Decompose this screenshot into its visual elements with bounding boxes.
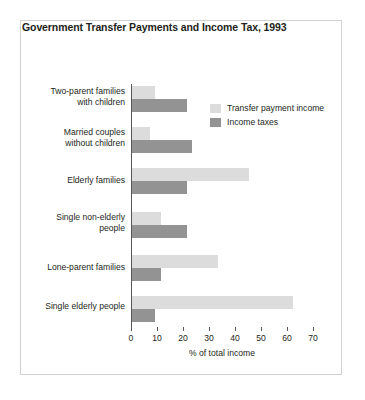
x-tick-label-2: 20	[171, 333, 195, 343]
x-tick-label-0: 0	[119, 333, 143, 343]
category-label-1: Married couples without children	[29, 127, 125, 149]
category-label-3-line-1: people	[29, 223, 125, 234]
category-label-4: Lone-parent families	[29, 262, 125, 273]
category-label-2-line-0: Elderly families	[29, 175, 125, 186]
category-label-2: Elderly families	[29, 175, 125, 186]
category-label-0: Two-parent families with children	[29, 86, 125, 108]
x-tick-label-5: 50	[249, 333, 273, 343]
bar-tax-0	[132, 99, 187, 112]
bar-transfer-0	[132, 86, 155, 99]
x-tick-7	[313, 327, 314, 331]
category-label-5: Single elderly people	[29, 301, 125, 312]
category-label-1-line-0: Married couples	[29, 127, 125, 138]
bar-transfer-1	[132, 127, 150, 140]
chart-legend: Transfer payment income Income taxes	[210, 103, 324, 131]
bar-transfer-5	[132, 296, 293, 309]
x-tick-0	[131, 327, 132, 331]
x-tick-5	[261, 327, 262, 331]
category-label-1-line-1: without children	[29, 138, 125, 149]
x-tick-1	[157, 327, 158, 331]
bar-transfer-4	[132, 255, 218, 268]
legend-item-transfer: Transfer payment income	[210, 103, 324, 113]
y-axis-line	[131, 84, 132, 327]
bar-transfer-3	[132, 212, 161, 225]
x-tick-6	[287, 327, 288, 331]
category-label-0-line-1: with children	[29, 97, 125, 108]
category-label-5-line-0: Single elderly people	[29, 301, 125, 312]
x-tick-label-1: 10	[145, 333, 169, 343]
legend-label-transfer: Transfer payment income	[227, 103, 324, 113]
legend-swatch-transfer-icon	[210, 104, 221, 113]
legend-item-tax: Income taxes	[210, 117, 324, 127]
category-label-3: Single non-elderly people	[29, 212, 125, 234]
legend-label-tax: Income taxes	[227, 117, 278, 127]
category-label-3-line-0: Single non-elderly	[29, 212, 125, 223]
x-tick-3	[209, 327, 210, 331]
bar-tax-1	[132, 140, 192, 153]
category-label-4-line-0: Lone-parent families	[29, 262, 125, 273]
x-tick-4	[235, 327, 236, 331]
legend-swatch-tax-icon	[210, 118, 221, 127]
bar-tax-5	[132, 309, 155, 322]
bar-tax-2	[132, 181, 187, 194]
x-tick-label-4: 40	[223, 333, 247, 343]
bar-tax-4	[132, 268, 161, 281]
x-tick-label-7: 70	[301, 333, 325, 343]
x-axis-title: % of total income	[131, 348, 313, 358]
category-label-0-line-0: Two-parent families	[29, 86, 125, 97]
x-tick-label-6: 60	[275, 333, 299, 343]
x-tick-2	[183, 327, 184, 331]
x-tick-label-3: 30	[197, 333, 221, 343]
bar-tax-3	[132, 225, 187, 238]
plot-area: Two-parent families with children Marrie…	[0, 0, 365, 400]
bar-transfer-2	[132, 168, 249, 181]
